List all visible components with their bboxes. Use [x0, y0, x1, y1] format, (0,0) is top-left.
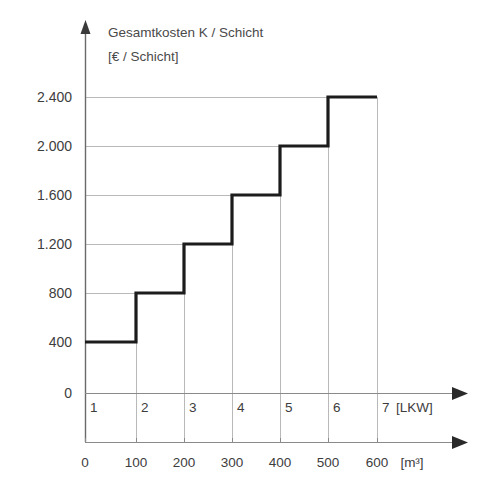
chart-title-line1: Gesamtkosten K / Schicht: [108, 25, 264, 40]
xtick-label-truck-4: 4: [237, 400, 245, 415]
x-axis-volume-arrow-icon: [452, 436, 468, 449]
step-cost-chart: Gesamtkosten K / Schicht [€ / Schicht] 2…: [0, 0, 489, 493]
xtick-label-truck-7: 7: [382, 400, 390, 415]
chart-title-line2: [€ / Schicht]: [108, 49, 179, 64]
xtick-label-volume-100: 100: [125, 455, 148, 470]
xtick-label-truck-3: 3: [189, 400, 197, 415]
ytick-label-2400: 2.400: [37, 89, 72, 105]
x-axis-volume-ticks: [86, 438, 378, 442]
xtick-label-truck-6: 6: [333, 400, 341, 415]
x-axis-volume: [85, 436, 468, 449]
xtick-label-truck-5: 5: [285, 400, 293, 415]
chart-canvas: Gesamtkosten K / Schicht [€ / Schicht] 2…: [0, 0, 489, 493]
step-cost-line: [85, 97, 377, 342]
y-axis-arrow-icon: [81, 20, 91, 34]
ytick-label-0: 0: [64, 385, 72, 401]
ytick-label-1200: 1.200: [37, 236, 72, 252]
ytick-label-2000: 2.000: [37, 138, 72, 154]
xtick-label-volume-500: 500: [317, 455, 340, 470]
ytick-label-400: 400: [49, 334, 73, 350]
y-axis: [81, 20, 91, 442]
xtick-label-truck-1: 1: [90, 400, 98, 415]
x-axis-trucks-arrow-icon: [452, 387, 468, 400]
ytick-label-1600: 1.600: [37, 187, 72, 203]
xtick-label-volume-400: 400: [269, 455, 292, 470]
xtick-label-truck-2: 2: [141, 400, 149, 415]
x-axis-trucks: [85, 387, 468, 400]
x-unit-label-volume: [m³]: [400, 455, 423, 470]
xtick-label-volume-0: 0: [81, 455, 89, 470]
xtick-label-volume-600: 600: [366, 455, 389, 470]
vertical-gridlines: [137, 97, 378, 442]
xtick-label-volume-200: 200: [173, 455, 196, 470]
ytick-label-800: 800: [49, 285, 73, 301]
x-unit-label-trucks: [LKW]: [396, 400, 433, 415]
xtick-label-volume-300: 300: [221, 455, 244, 470]
